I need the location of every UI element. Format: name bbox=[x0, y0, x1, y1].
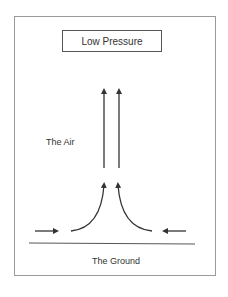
ground-line bbox=[29, 243, 195, 244]
diagram-graphics bbox=[0, 0, 228, 297]
curved-arrow-left-icon bbox=[71, 185, 104, 231]
curved-arrow-right-icon bbox=[118, 185, 152, 231]
